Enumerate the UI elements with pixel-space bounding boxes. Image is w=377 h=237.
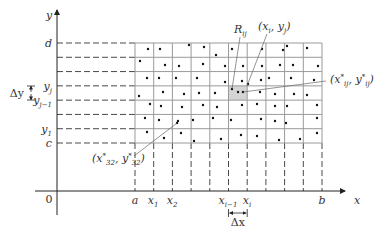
sample-point — [242, 65, 244, 67]
y-tick-label: yj−1 — [32, 94, 52, 109]
y-tick-label: y1 — [40, 123, 52, 138]
sample-point — [278, 139, 280, 141]
sample-point — [146, 77, 148, 79]
sample-point — [147, 48, 149, 50]
sample-point — [261, 65, 263, 67]
sample-point — [293, 93, 295, 95]
sample-point — [241, 104, 243, 106]
sample-point — [224, 65, 226, 67]
sample-point — [237, 91, 239, 93]
callout-label: (x*ij, y*ij) — [330, 73, 374, 88]
sample-point — [149, 103, 151, 105]
sample-point — [274, 120, 276, 122]
sample-point — [188, 44, 190, 46]
sample-point — [306, 47, 308, 49]
sample-point — [214, 92, 216, 94]
sample-point — [193, 140, 195, 142]
sample-point — [259, 91, 261, 93]
sample-point — [286, 45, 288, 47]
callout-label: (xi, yj) — [258, 20, 290, 35]
callout-label: (x*32, y*32) — [92, 152, 145, 167]
sample-point — [241, 80, 243, 82]
sample-point — [224, 81, 226, 83]
sample-point — [177, 120, 179, 122]
coordinate-axes — [27, 10, 345, 217]
sample-point — [316, 117, 318, 119]
sample-point — [306, 94, 308, 96]
sample-point — [198, 92, 200, 94]
region-callout-line — [232, 37, 240, 89]
sample-point — [139, 60, 141, 62]
sample-point — [158, 77, 160, 79]
x-axis-label: x — [354, 194, 361, 207]
sample-point — [183, 93, 185, 95]
dashed-guide-lines — [57, 43, 322, 191]
y-tick-label: c — [46, 137, 52, 150]
sample-point — [285, 122, 287, 124]
sample-point — [316, 132, 318, 134]
sample-point — [292, 64, 294, 66]
sample-point — [138, 95, 140, 97]
delta-x-label: Δx — [231, 216, 246, 229]
sample-point — [164, 64, 166, 66]
sample-point — [162, 91, 164, 93]
sample-point — [256, 103, 258, 105]
sample-point — [220, 138, 222, 140]
sample-point — [181, 106, 183, 108]
region-label-rij: Rij — [233, 23, 248, 38]
sample-point — [202, 63, 204, 65]
sample-point — [282, 49, 284, 51]
x-tick-label: xi — [243, 194, 251, 209]
x-tick-label: x2 — [167, 194, 178, 209]
sample-point — [160, 105, 162, 107]
sample-point — [313, 79, 315, 81]
sample-point — [203, 46, 205, 48]
double-integral-partition-diagram: (xi, yj)(x*ij, y*ij)(x*32, y*32)Rijdyjyj… — [0, 0, 377, 237]
sample-point — [159, 48, 161, 50]
callout-line — [247, 34, 267, 86]
sample-point — [178, 65, 180, 67]
sample-point — [163, 137, 165, 139]
sample-point — [216, 106, 218, 108]
sample-point — [260, 79, 262, 81]
sample-point — [202, 104, 204, 106]
sample-point — [240, 134, 242, 136]
x-tick-label: b — [318, 194, 325, 207]
x-tick-label: a — [132, 194, 139, 207]
sample-point — [260, 118, 262, 120]
sample-point — [316, 104, 318, 106]
axis-labels: (xi, yj)(x*ij, y*ij)(x*32, y*32)Rijdyjyj… — [10, 9, 374, 229]
sample-point — [158, 119, 160, 121]
sample-point — [274, 93, 276, 95]
sample-point — [144, 117, 146, 119]
origin-label: 0 — [46, 193, 53, 206]
sample-point — [231, 48, 233, 50]
sample-point — [192, 119, 194, 121]
sample-point — [256, 135, 258, 137]
sample-point — [175, 77, 177, 79]
sample-point — [230, 119, 232, 121]
delta-y-label: Δy — [10, 87, 25, 100]
sample-point — [286, 105, 288, 107]
sample-point — [279, 64, 281, 66]
sample-point — [215, 54, 217, 56]
y-tick-label: yj — [43, 80, 53, 95]
sample-point — [196, 77, 198, 79]
y-tick-label: d — [45, 37, 52, 50]
y-axis-label: y — [45, 9, 53, 22]
sample-point — [299, 138, 301, 140]
sample-point — [274, 105, 276, 107]
sample-point — [317, 65, 319, 67]
x-tick-label: x1 — [148, 194, 159, 209]
sample-point — [180, 132, 182, 134]
x-tick-label: xi−1 — [219, 194, 238, 209]
sample-point — [146, 131, 148, 133]
sample-point — [290, 77, 292, 79]
sample-point — [212, 117, 214, 119]
sample-point — [268, 77, 270, 79]
